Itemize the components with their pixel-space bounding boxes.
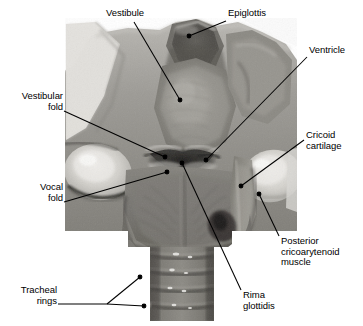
label-posterior-cricoarytenoid-muscle: Posterior cricoarytenoid muscle [281, 236, 339, 268]
label-tracheal-rings: Tracheal rings [8, 285, 57, 306]
label-ventricle: Ventricle [309, 45, 345, 56]
label-vestibule: Vestibule [106, 8, 144, 19]
label-cricoid-cartilage: Cricoid cartilage [306, 130, 341, 151]
label-rima-glottidis: Rima glottidis [243, 290, 275, 311]
label-vocal-fold: Vocal fold [8, 182, 63, 203]
anatomy-figure: Vestibule Epiglottis Ventricle Vestibula… [0, 0, 363, 326]
label-vestibular-fold: Vestibular fold [8, 91, 63, 112]
label-epiglottis: Epiglottis [228, 8, 266, 19]
